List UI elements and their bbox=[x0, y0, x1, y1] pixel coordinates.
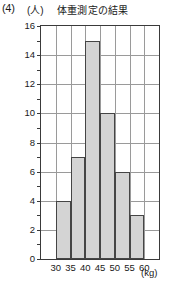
y-axis-tick bbox=[37, 70, 41, 71]
x-axis-tick-label: 40 bbox=[80, 263, 91, 273]
y-axis-tick-label: 10 bbox=[24, 109, 35, 119]
y-axis-tick bbox=[37, 55, 41, 56]
y-axis-tick bbox=[37, 244, 41, 245]
y-axis-tick-label: 8 bbox=[30, 138, 35, 148]
y-axis-tick-label: 0 bbox=[30, 254, 35, 264]
y-axis-tick bbox=[37, 113, 41, 114]
y-axis-tick bbox=[37, 26, 41, 27]
y-axis-tick bbox=[37, 259, 41, 260]
x-axis-tick-label: 35 bbox=[65, 263, 76, 273]
y-axis-tick bbox=[37, 41, 41, 42]
chart-title: 体重測定の結果 bbox=[57, 2, 128, 17]
y-axis-tick-label: 4 bbox=[30, 196, 35, 206]
y-axis-tick bbox=[37, 186, 41, 187]
x-axis-tick-label: 30 bbox=[50, 263, 61, 273]
y-axis-tick bbox=[37, 230, 41, 231]
y-axis-tick-label: 2 bbox=[30, 225, 35, 235]
y-axis-tick bbox=[37, 84, 41, 85]
x-axis-tick-label: 55 bbox=[124, 263, 135, 273]
axis-ticks-and-labels: 024681012141630354045505560 bbox=[41, 26, 159, 259]
y-axis-tick bbox=[37, 128, 41, 129]
y-axis-tick bbox=[37, 201, 41, 202]
y-axis-tick-label: 12 bbox=[24, 80, 35, 90]
x-axis-tick-label: 50 bbox=[109, 263, 120, 273]
question-number: (4) bbox=[2, 2, 15, 14]
y-axis-tick bbox=[37, 99, 41, 100]
histogram-plot-area: 024681012141630354045505560 bbox=[40, 25, 160, 260]
y-axis-tick-label: 16 bbox=[24, 21, 35, 31]
y-axis-tick-label: 14 bbox=[24, 50, 35, 60]
x-axis-unit-label: (kg) bbox=[141, 268, 157, 278]
y-axis-tick bbox=[37, 143, 41, 144]
y-axis-tick bbox=[37, 215, 41, 216]
y-axis-tick bbox=[37, 157, 41, 158]
x-axis-tick-label: 45 bbox=[95, 263, 106, 273]
y-axis-tick-label: 6 bbox=[30, 167, 35, 177]
y-axis-unit-label: (人) bbox=[27, 2, 44, 17]
y-axis-tick bbox=[37, 172, 41, 173]
